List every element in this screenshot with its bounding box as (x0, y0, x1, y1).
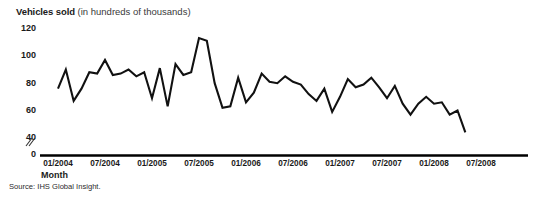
data-series-line (58, 38, 465, 132)
plot-area (0, 0, 538, 201)
chart-figure: Vehicles sold (in hundreds of thousands)… (0, 0, 538, 201)
x-axis-label: Month (41, 170, 68, 180)
source-note: Source: IHS Global Insight. (9, 182, 101, 191)
x-tick-07-2008: 07/2008 (451, 159, 511, 168)
